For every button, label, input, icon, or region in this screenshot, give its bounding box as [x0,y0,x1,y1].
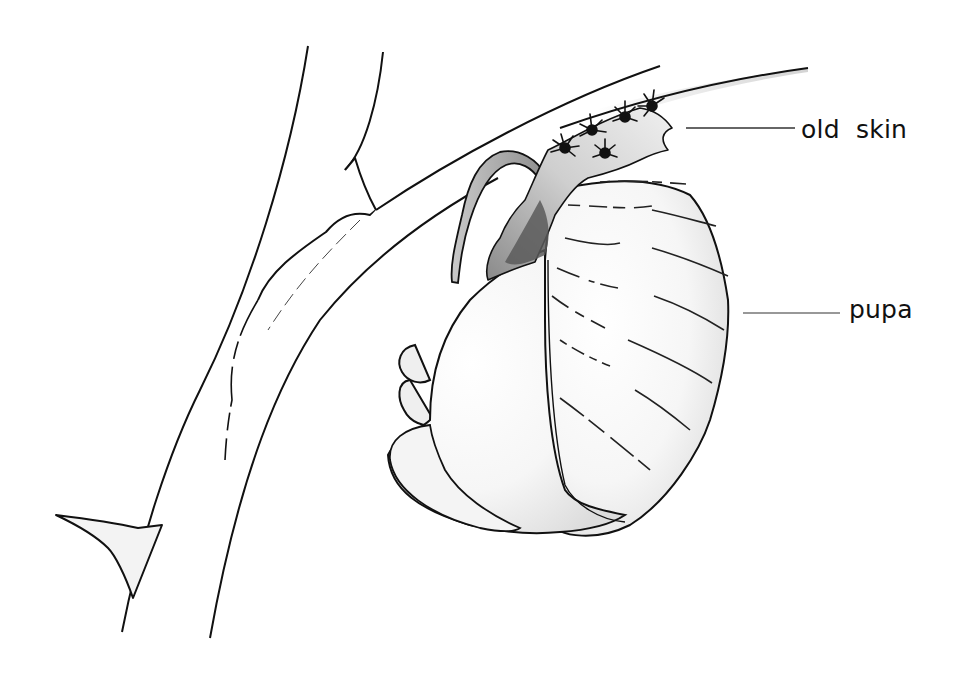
pupa-illustration [0,0,967,676]
main-stem [122,46,383,632]
thorn-lower [56,515,162,598]
label-old-skin: old skin [801,117,907,142]
pupa-body [388,181,728,536]
label-pupa: pupa [849,297,913,322]
